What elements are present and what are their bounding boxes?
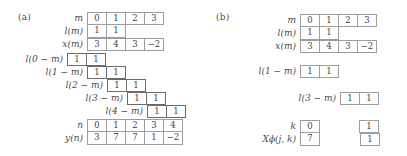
- a-row-x: 3 4 3 −2: [87, 38, 164, 51]
- label-b-x-m: x(m): [258, 41, 296, 51]
- b-m-cell: 3: [357, 14, 377, 27]
- b-k-gap: [320, 120, 340, 133]
- b-m-cell: 1: [319, 14, 339, 27]
- a-row-y: 3 7 7 1 −2: [87, 132, 183, 145]
- a-x-cell: 4: [106, 38, 126, 51]
- a-row-l: 1 1: [87, 25, 126, 38]
- b-k-cell: 0: [300, 120, 320, 133]
- a-y-cell: 7: [106, 132, 126, 145]
- a-l4-cell: 1: [166, 105, 186, 118]
- label-b-k: k: [258, 121, 296, 131]
- b-m-cell: 2: [338, 14, 358, 27]
- label-a-l3: l(3 − m): [65, 93, 123, 103]
- a-l-cell: 1: [87, 25, 107, 38]
- b-xjk-cell: 1: [360, 133, 380, 146]
- label-a-l0: l(0 − m): [5, 54, 63, 64]
- a-l3-cell: 1: [146, 92, 166, 105]
- a-n-cell: 0: [87, 119, 107, 132]
- label-b-l3: l(3 − m): [278, 93, 336, 103]
- label-b-x-jk: Xϕ(j, k): [248, 134, 296, 144]
- b-row-xjk: 7 1: [300, 133, 380, 146]
- b-x-cell: 4: [319, 40, 339, 53]
- b-row-l: 1 1: [300, 27, 339, 40]
- b-l-cell: 1: [319, 27, 339, 40]
- b-k-cell: 1: [359, 120, 379, 133]
- a-x-cell: 3: [87, 38, 107, 51]
- a-l3-cell: 1: [127, 92, 147, 105]
- a-l2-cell: 1: [107, 79, 127, 92]
- b-row-k: 0 1: [300, 120, 379, 133]
- a-y-cell: 3: [87, 132, 107, 145]
- a-row-n: 0 1 2 3 4: [87, 119, 183, 132]
- a-m-cell: 2: [125, 12, 145, 25]
- a-l0-cell: 1: [67, 53, 87, 66]
- panel-b-tag: (b): [216, 12, 229, 22]
- b-x-cell: 3: [300, 40, 320, 53]
- a-n-cell: 1: [106, 119, 126, 132]
- label-a-y-n: y(n): [47, 133, 83, 143]
- b-l1-cell: 1: [300, 65, 320, 78]
- a-l-cell: 1: [106, 25, 126, 38]
- a-row-l0: 1 1: [67, 53, 106, 66]
- a-n-cell: 2: [125, 119, 145, 132]
- a-row-m: 0 1 2 3: [87, 12, 164, 25]
- b-xjk-gap: [320, 133, 340, 146]
- a-y-cell: −2: [163, 132, 183, 145]
- panel-a-tag: (a): [18, 12, 31, 22]
- figure-root: (a) m l(m) x(m) 0 1 2 3 1 1 3 4 3 −2 l(0…: [0, 0, 407, 156]
- b-xjk-cell: 7: [300, 133, 320, 146]
- b-row-l1: 1 1: [300, 65, 339, 78]
- a-row-l3: 1 1: [127, 92, 166, 105]
- a-x-cell: −2: [144, 38, 164, 51]
- a-row-l4: 1 1: [147, 105, 186, 118]
- a-l2-cell: 1: [126, 79, 146, 92]
- label-a-x-m: x(m): [47, 39, 83, 49]
- label-b-l1: l(1 − m): [238, 66, 296, 76]
- label-a-l2: l(2 − m): [45, 80, 103, 90]
- a-y-cell: 7: [125, 132, 145, 145]
- b-row-l3: 1 1: [340, 92, 379, 105]
- a-m-cell: 3: [144, 12, 164, 25]
- a-row-l1: 1 1: [87, 66, 126, 79]
- b-k-gap: [340, 120, 360, 133]
- b-xjk-gap: [340, 133, 360, 146]
- label-a-l-m: l(m): [47, 26, 83, 36]
- a-l0-cell: 1: [86, 53, 106, 66]
- label-a-m: m: [47, 13, 83, 23]
- label-a-n: n: [47, 120, 83, 130]
- a-n-cell: 3: [144, 119, 164, 132]
- b-l-cell: 1: [300, 27, 320, 40]
- label-b-m: m: [258, 15, 296, 25]
- b-x-cell: −2: [357, 40, 377, 53]
- a-n-cell: 4: [163, 119, 183, 132]
- a-y-cell: 1: [144, 132, 164, 145]
- a-l1-cell: 1: [106, 66, 126, 79]
- b-row-x: 3 4 3 −2: [300, 40, 377, 53]
- b-x-cell: 3: [338, 40, 358, 53]
- b-m-cell: 0: [300, 14, 320, 27]
- a-x-cell: 3: [125, 38, 145, 51]
- b-row-m: 0 1 2 3: [300, 14, 377, 27]
- label-b-l-m: l(m): [258, 28, 296, 38]
- a-m-cell: 1: [106, 12, 126, 25]
- a-l4-cell: 1: [147, 105, 167, 118]
- b-l3-cell: 1: [340, 92, 360, 105]
- a-row-l2: 1 1: [107, 79, 146, 92]
- b-l3-cell: 1: [359, 92, 379, 105]
- a-l1-cell: 1: [87, 66, 107, 79]
- label-a-l4: l(4 − m): [85, 106, 143, 116]
- a-m-cell: 0: [87, 12, 107, 25]
- label-a-l1: l(1 − m): [25, 67, 83, 77]
- b-l1-cell: 1: [319, 65, 339, 78]
